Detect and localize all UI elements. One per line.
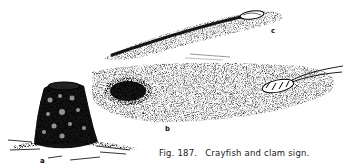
illustration: a b c — [0, 0, 352, 168]
panel-c-clam-trail — [104, 9, 282, 60]
panel-label-a: a — [40, 157, 45, 165]
panel-label-c: c — [271, 27, 275, 35]
caption-text: Crayfish and clam sign. — [205, 148, 309, 158]
panel-b-crayfish-burrow — [92, 63, 343, 122]
panel-label-b: b — [165, 125, 170, 133]
figure-number: Fig. 187. — [159, 148, 197, 158]
figure-caption: Fig. 187.Crayfish and clam sign. — [159, 148, 310, 158]
